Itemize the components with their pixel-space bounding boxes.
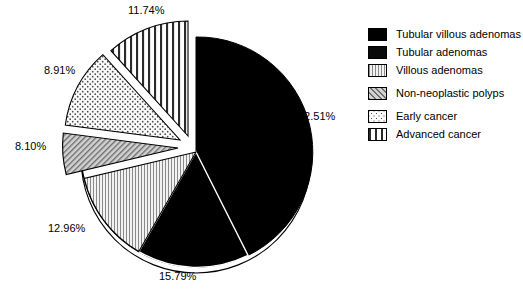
- legend-label-early-cancer: Early cancer: [396, 110, 457, 123]
- slice-label-tubular-villous-adenomas: 42.51%: [298, 110, 335, 122]
- legend-swatch-fine-vertical-lines-icon: [368, 64, 387, 77]
- slice-label-tubular-adenomas: 15.79%: [159, 270, 196, 282]
- legend-item-advanced-cancer[interactable]: Advanced cancer: [368, 126, 520, 143]
- slice-label-villous-adenomas: 12.96%: [48, 222, 85, 234]
- slice-label-advanced-cancer: 11.74%: [128, 4, 165, 16]
- slice-label-non-neoplastic-polyps: 8.10%: [15, 140, 46, 152]
- legend-label-non-neoplastic-polyps: Non-neoplastic polyps: [396, 87, 504, 100]
- legend-swatch-bold-vertical-stripes-icon: [368, 128, 387, 141]
- legend-item-tubular-adenomas[interactable]: Tubular adenomas: [368, 44, 520, 61]
- legend-swatch-sparse-dots-icon: [368, 110, 387, 123]
- legend-swatch-solid-black-icon: [368, 46, 387, 59]
- legend-swatch-diagonal-hatch-icon: [368, 87, 387, 100]
- legend-item-villous-adenomas[interactable]: Villous adenomas: [368, 62, 520, 79]
- legend-label-advanced-cancer: Advanced cancer: [396, 128, 481, 141]
- legend-item-tubular-villous-adenomas[interactable]: Tubular villous adenomas: [368, 26, 520, 43]
- pie-exploded-slices: [63, 21, 188, 175]
- legend-item-non-neoplastic-polyps[interactable]: Non-neoplastic polyps: [368, 85, 520, 102]
- slice-label-early-cancer: 8.91%: [44, 64, 75, 76]
- legend-item-early-cancer[interactable]: Early cancer: [368, 108, 520, 125]
- legend-label-villous-adenomas: Villous adenomas: [396, 64, 483, 77]
- legend-label-tubular-villous-adenomas: Tubular villous adenomas: [396, 28, 521, 41]
- legend-swatch-solid-black-icon: [368, 28, 387, 41]
- chart-legend: Tubular villous adenomas Tubular adenoma…: [368, 26, 520, 144]
- legend-label-tubular-adenomas: Tubular adenomas: [396, 46, 487, 59]
